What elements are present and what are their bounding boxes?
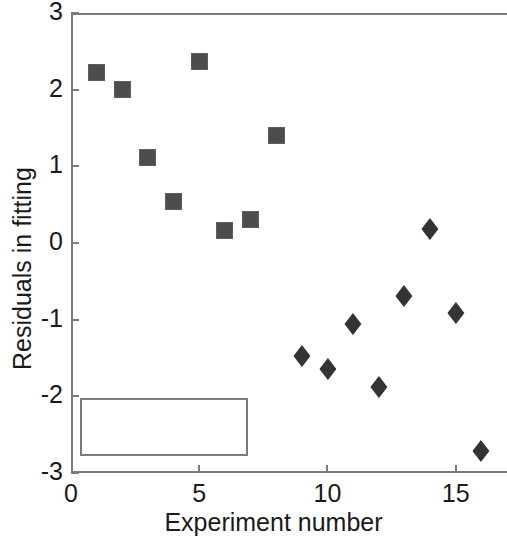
data-point-diamond bbox=[319, 358, 337, 380]
y-tick-mark bbox=[71, 165, 79, 167]
data-point-square bbox=[216, 222, 233, 239]
y-tick-mark bbox=[71, 395, 79, 397]
x-tick-label: 10 bbox=[314, 479, 342, 508]
x-tick-mark bbox=[326, 465, 328, 473]
y-axis-label: Residuals in fitting bbox=[8, 167, 37, 370]
y-tick-label: 0 bbox=[49, 227, 63, 256]
x-tick-label: 15 bbox=[442, 479, 470, 508]
data-point-diamond bbox=[395, 285, 413, 307]
y-tick-mark bbox=[71, 242, 79, 244]
y-tick-label: -3 bbox=[41, 457, 63, 486]
x-tick-label: 0 bbox=[64, 479, 78, 508]
data-point-square bbox=[268, 127, 285, 144]
x-axis-label: Experiment number bbox=[0, 508, 507, 537]
y-tick-label: 1 bbox=[49, 150, 63, 179]
data-point-square bbox=[165, 193, 182, 210]
data-point-square bbox=[88, 64, 105, 81]
data-point-diamond bbox=[472, 440, 490, 462]
x-tick-mark bbox=[455, 465, 457, 473]
data-point-square bbox=[242, 211, 259, 228]
y-tick-mark bbox=[71, 472, 79, 474]
y-tick-mark bbox=[71, 319, 79, 321]
y-tick-label: -1 bbox=[41, 304, 63, 333]
y-tick-label: 2 bbox=[49, 74, 63, 103]
legend: Block-1Block-2 bbox=[80, 398, 248, 456]
data-point-diamond bbox=[421, 218, 439, 240]
data-point-diamond bbox=[370, 376, 388, 398]
data-point-diamond bbox=[344, 313, 362, 335]
x-tick-mark bbox=[198, 465, 200, 473]
data-point-square bbox=[114, 81, 131, 98]
y-tick-label: 3 bbox=[49, 0, 63, 26]
x-tick-label: 5 bbox=[192, 479, 206, 508]
data-point-square bbox=[191, 53, 208, 70]
data-point-diamond bbox=[293, 345, 311, 367]
y-tick-mark bbox=[71, 12, 79, 14]
scatter-plot-figure: Residuals in fitting Experiment number 3… bbox=[0, 0, 507, 548]
data-point-square bbox=[139, 149, 156, 166]
data-point-diamond bbox=[447, 302, 465, 324]
y-tick-mark bbox=[71, 89, 79, 91]
y-tick-label: -2 bbox=[41, 380, 63, 409]
